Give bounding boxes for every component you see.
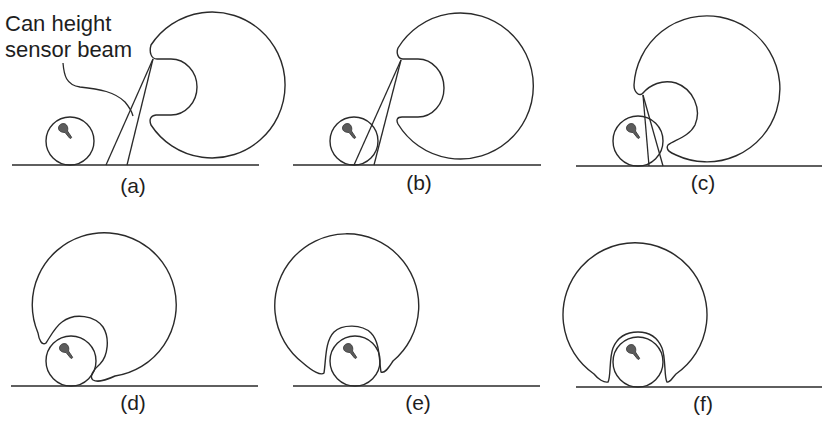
robot-body xyxy=(32,233,176,381)
robot-body xyxy=(275,234,419,374)
can-outline xyxy=(46,117,94,165)
can xyxy=(613,337,663,387)
panel-e: (e) xyxy=(275,234,540,414)
can xyxy=(330,336,380,386)
panel-label: (b) xyxy=(406,171,432,194)
callout-line-2: sensor beam xyxy=(5,37,132,62)
panel-b: (b) xyxy=(293,13,541,194)
panel-label: (d) xyxy=(120,391,146,414)
panel-label: (e) xyxy=(405,391,431,414)
panel-f: (f) xyxy=(563,243,822,415)
can-outline xyxy=(46,336,96,386)
can-tab-mark-icon xyxy=(344,344,357,359)
can-tab-mark-icon xyxy=(627,124,640,139)
callout-leader-line xyxy=(63,63,133,116)
can-tab-mark-icon xyxy=(627,345,640,360)
panel-d: (d) xyxy=(11,233,258,414)
robot-body xyxy=(563,243,707,382)
can-outline xyxy=(613,337,663,387)
panel-label: (a) xyxy=(120,174,146,197)
can-outline xyxy=(330,117,378,165)
callout-line-1: Can height xyxy=(5,11,111,36)
can-tab-mark-icon xyxy=(60,344,73,359)
can-tab-mark-icon xyxy=(59,124,72,139)
panel-label: (c) xyxy=(691,171,716,194)
can xyxy=(46,336,96,386)
panel-label: (f) xyxy=(693,392,713,415)
robot-body xyxy=(397,13,533,159)
can-outline xyxy=(330,336,380,386)
can xyxy=(46,117,94,165)
sensor-beam-line xyxy=(106,59,153,165)
can xyxy=(330,117,378,165)
can-capture-sequence-diagram: Can height sensor beam (a) (b) xyxy=(0,0,829,431)
can-tab-mark-icon xyxy=(343,124,356,139)
sensor-beam-callout: Can height sensor beam xyxy=(5,11,133,116)
robot-body xyxy=(150,12,285,158)
panel-c: (c) xyxy=(576,16,822,194)
